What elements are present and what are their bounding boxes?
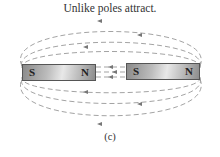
magnet-left: S N	[22, 64, 96, 81]
pole-label-n: N	[185, 65, 193, 77]
pole-label-n: N	[81, 66, 89, 78]
figure-caption: (c)	[0, 131, 220, 142]
pole-label-s: S	[29, 66, 35, 78]
pole-label-s: S	[133, 65, 139, 77]
magnet-right: S N	[126, 63, 200, 80]
figure: Unlike poles attract.	[0, 0, 220, 157]
